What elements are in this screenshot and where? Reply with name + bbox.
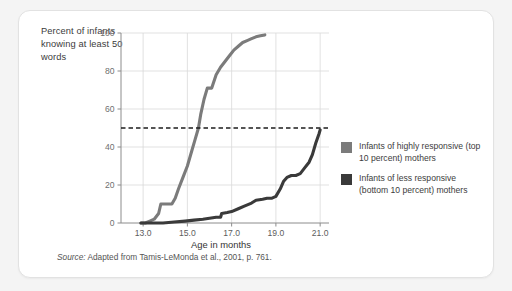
- legend-item: Infants of less responsive (bottom 10 pe…: [341, 173, 487, 196]
- y-tick-label: 40: [105, 142, 115, 152]
- legend-item: Infants of highly responsive (top 10 per…: [341, 141, 487, 164]
- y-tick-label: 100: [100, 28, 115, 38]
- x-axis-title: Age in months: [111, 239, 331, 250]
- chart-container: Percent of infants knowing at least 50 w…: [19, 11, 495, 279]
- y-tick-label: 60: [105, 104, 115, 114]
- legend-swatch-icon: [341, 174, 352, 185]
- legend-swatch-icon: [341, 142, 352, 153]
- series-line-1: [141, 130, 320, 223]
- chart-legend: Infants of highly responsive (top 10 per…: [341, 141, 487, 205]
- y-tick-label: 20: [105, 180, 115, 190]
- legend-item-label: Infants of less responsive (bottom 10 pe…: [359, 173, 487, 196]
- y-tick-label: 80: [105, 66, 115, 76]
- x-tick-label: 21.0: [312, 228, 329, 238]
- figure-root: Percent of infants knowing at least 50 w…: [0, 0, 512, 291]
- source-text: Adapted from Tamis-LeMonda et al., 2001,…: [86, 252, 272, 262]
- y-tick-label: 0: [110, 218, 115, 228]
- series-line-0: [141, 35, 265, 223]
- x-tick-label: 15.0: [179, 228, 196, 238]
- x-tick-label: 19.0: [268, 228, 285, 238]
- x-tick-label: 13.0: [135, 228, 152, 238]
- legend-item-label: Infants of highly responsive (top 10 per…: [359, 141, 487, 164]
- figure-card: Percent of infants knowing at least 50 w…: [18, 10, 494, 278]
- x-tick-label: 17.0: [223, 228, 240, 238]
- source-note: Source: Adapted from Tamis-LeMonda et al…: [57, 252, 272, 262]
- source-label: Source:: [57, 252, 86, 262]
